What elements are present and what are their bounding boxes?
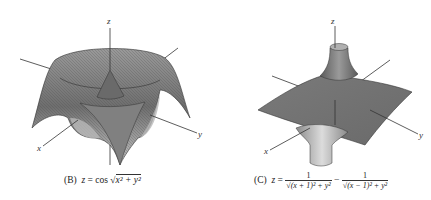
z-axis-label-b: z xyxy=(107,16,111,26)
caption-c-lhs: z xyxy=(271,175,275,185)
surface-plot-c xyxy=(220,0,431,200)
z-axis-label-c: z xyxy=(331,16,335,26)
x-axis-label-c: x xyxy=(264,146,268,156)
x-axis-label-b: x xyxy=(37,143,41,153)
caption-c-eq: = xyxy=(278,175,283,185)
caption-b-fn: cos xyxy=(95,175,108,185)
fraction-1-denominator: √(x + 1)² + y² xyxy=(285,181,331,190)
figure-b: z x y (B) z = cos √x² + y² xyxy=(0,0,220,200)
minus-sign: − xyxy=(334,175,339,185)
fraction-1: 1 √(x + 1)² + y² xyxy=(285,171,331,190)
caption-b-eq: = xyxy=(88,175,93,185)
fraction-2: 1 √(x − 1)² + y² xyxy=(342,171,388,190)
fraction-1-numerator: 1 xyxy=(285,171,331,181)
surface-plot-b xyxy=(0,0,220,200)
fraction-2-numerator: 1 xyxy=(342,171,388,181)
y-axis-label-b: y xyxy=(198,129,202,139)
caption-c: (C) z = 1 √(x + 1)² + y² − 1 √(x − 1)² +… xyxy=(254,171,388,190)
caption-b-radicand: x² + y² xyxy=(116,174,141,185)
fraction-2-denominator: √(x − 1)² + y² xyxy=(342,181,388,190)
caption-c-label: (C) xyxy=(254,175,267,185)
caption-b-lhs: z xyxy=(81,175,85,185)
caption-b: (B) z = cos √x² + y² xyxy=(64,175,141,185)
figure-c: z x y (C) z = 1 √(x + 1)² + y² − 1 √(x −… xyxy=(220,0,431,200)
caption-b-label: (B) xyxy=(64,175,77,185)
sqrt-symbol: √ xyxy=(110,175,115,185)
y-axis-label-c: y xyxy=(419,130,423,140)
